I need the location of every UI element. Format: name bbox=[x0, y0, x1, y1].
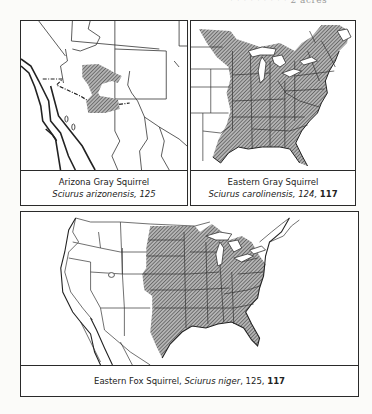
caption-arizona-gray-squirrel: Arizona Gray Squirrel Sciurus arizonensi… bbox=[21, 170, 187, 205]
eastern-us-map-graphic bbox=[191, 21, 355, 170]
map-panel-arizona-gray-squirrel: Arizona Gray Squirrel Sciurus arizonensi… bbox=[20, 20, 188, 206]
range-area-eastern-fox bbox=[142, 224, 265, 358]
range-map-eastern-fox bbox=[21, 212, 358, 366]
page-ref: , 124, bbox=[293, 189, 320, 199]
north-america-map-graphic bbox=[21, 212, 358, 365]
page-ref: , 125, bbox=[240, 375, 267, 387]
map-panel-eastern-fox-squirrel: Eastern Fox Squirrel, Sciurus niger, 125… bbox=[20, 211, 359, 397]
page-fragment-text: · · · · · · · · · 2 acres bbox=[230, 0, 327, 5]
bold-page-ref: 117 bbox=[320, 189, 338, 199]
common-name: Eastern Gray Squirrel bbox=[191, 176, 355, 188]
range-map-eastern-gray bbox=[191, 21, 355, 171]
caption-eastern-gray-squirrel: Eastern Gray Squirrel Sciurus carolinens… bbox=[191, 170, 355, 205]
scientific-name: Sciurus carolinensis bbox=[208, 189, 292, 199]
range-area-eastern-gray bbox=[199, 25, 349, 166]
scientific-name: Sciurus niger bbox=[184, 375, 240, 387]
common-name: Eastern Fox Squirrel, bbox=[94, 375, 184, 387]
page-ref: , 125 bbox=[134, 189, 156, 199]
bold-page-ref: 117 bbox=[267, 375, 285, 387]
range-area-arizona-gray bbox=[82, 64, 122, 113]
scientific-name: Sciurus arizonensis bbox=[52, 189, 134, 199]
southwest-map-graphic bbox=[21, 21, 187, 170]
map-panel-eastern-gray-squirrel: Eastern Gray Squirrel Sciurus carolinens… bbox=[190, 20, 356, 206]
caption-eastern-fox-squirrel: Eastern Fox Squirrel, Sciurus niger, 125… bbox=[21, 365, 358, 396]
range-map-arizona bbox=[21, 21, 187, 171]
common-name: Arizona Gray Squirrel bbox=[21, 176, 187, 188]
